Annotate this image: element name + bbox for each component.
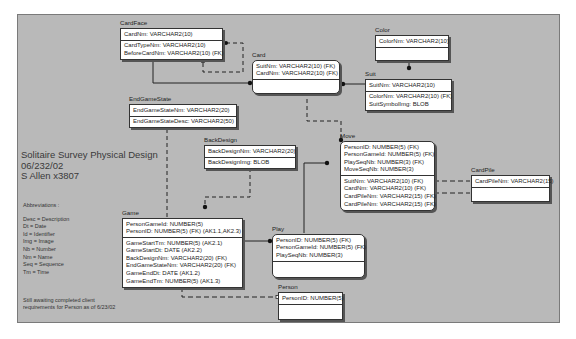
key-section: CardPileNm: VARCHAR2(15) [472, 176, 549, 187]
key-section: PersonGameId: NUMBER(5) PersonID: NUMBER… [123, 219, 242, 237]
entity-name: Move [340, 132, 355, 140]
abbreviation-item: Nm = Name [23, 254, 69, 262]
entity-backdesign[interactable]: BackDesign BackDesignNm: VARCHAR2(20) Ba… [204, 145, 296, 169]
entity-name: Person [278, 283, 298, 291]
attribute: MoveSeqNb: NUMBER(3) [344, 166, 431, 174]
attribute-section [376, 47, 448, 60]
entity-name: Game [122, 209, 139, 217]
entity-cardface[interactable]: CardFace CardNm: VARCHAR2(10) CardTypeNm… [120, 28, 223, 60]
attribute: PersonID: NUMBER(5) [282, 295, 339, 303]
key-section: BackDesignNm: VARCHAR2(20) [205, 146, 295, 157]
abbreviations-legend: Abbreviations : Desc = Description Dt = … [23, 202, 69, 276]
attribute: ColorNm: VARCHAR2(10) [379, 38, 445, 46]
attribute: CardPileNm: VARCHAR2(15) [475, 178, 546, 186]
attribute: PersonGameId: NUMBER(5) (FK) [344, 151, 431, 159]
attribute: GameStartDt: DATE (AK2.2) [126, 247, 239, 255]
key-section: PersonID: NUMBER(5) (FK) PersonGameId: N… [341, 142, 434, 175]
attribute: GameEndDt: DATE (AK1.2) [126, 270, 239, 278]
key-section: CardNm: VARCHAR2(10) [121, 29, 222, 40]
note-line: Still awaiting completed client [23, 297, 115, 304]
attribute: EndGameStateDesc: VARCHAR2(50) [133, 118, 233, 126]
key-section: SuitNm: VARCHAR2(10) [366, 80, 451, 91]
abbreviation-item: Desc = Description [23, 216, 69, 224]
attribute: ColorNm: VARCHAR2(10) (FK) [369, 93, 448, 101]
abbreviation-item: Nb = Number [23, 246, 69, 254]
entity-name: CardPile [471, 166, 495, 174]
diagram-title: Solitaire Survey Physical Design [21, 150, 158, 161]
entity-play[interactable]: Play PersonID: NUMBER(5) (FK) PersonGame… [272, 234, 365, 278]
attribute-section: ColorNm: VARCHAR2(10) (FK) SuitSymbolImg… [366, 91, 451, 110]
abbreviation-item: Tm = Time [23, 269, 69, 277]
diagram-title-block: Solitaire Survey Physical Design 06/232/… [21, 150, 158, 182]
attribute: GameStartTm: NUMBER(5) (AK2.1) [126, 240, 239, 248]
key-section: EndGameStateNm: VARCHAR2(20) [130, 105, 236, 116]
attribute: BackDesignNm: VARCHAR2(20) (FK) [126, 255, 239, 263]
attribute: CardPileNm: VARCHAR2(15) (FK) [344, 193, 431, 201]
attribute-section: EndGameStateDesc: VARCHAR2(50) [130, 116, 236, 128]
entity-cardpile[interactable]: CardPile CardPileNm: VARCHAR2(15) [471, 175, 550, 202]
entity-game[interactable]: Game PersonGameId: NUMBER(5) PersonID: N… [122, 218, 243, 288]
attribute: CardPileNm: VARCHAR2(15) (FK) [344, 201, 431, 209]
attribute: CardNm: VARCHAR2(10) (FK) [344, 185, 431, 193]
attribute: PersonID: NUMBER(5) (FK) (AK1.1,AK2.3) [126, 228, 239, 236]
attribute: SuitNm: VARCHAR2(10) (FK) [256, 63, 336, 71]
attribute: CardTypeNm: VARCHAR2(10) [124, 42, 219, 50]
attribute: PersonID: NUMBER(5) (FK) [344, 144, 431, 152]
attribute-section: CardTypeNm: VARCHAR2(10) BeforeCardNm: V… [121, 40, 222, 59]
key-section: ColorNm: VARCHAR2(10) [376, 36, 448, 47]
entity-endgamestate[interactable]: EndGameState EndGameStateNm: VARCHAR2(20… [129, 104, 237, 128]
key-section: PersonID: NUMBER(5) [279, 293, 342, 304]
abbreviation-item: Dt = Date [23, 223, 69, 231]
entity-name: Play [272, 225, 284, 233]
entity-name: EndGameState [129, 95, 171, 103]
entity-move[interactable]: Move PersonID: NUMBER(5) (FK) PersonGame… [340, 141, 435, 211]
abbreviation-item: Seq = Sequence [23, 261, 69, 269]
abbreviation-item: Id = Identifier [23, 231, 69, 239]
entity-name: Color [375, 26, 390, 34]
entity-suit[interactable]: Suit SuitNm: VARCHAR2(10) ColorNm: VARCH… [365, 79, 452, 111]
note-line: requirements for Person as of 6/23/02 [23, 304, 115, 311]
attribute: EndGameStateNm: VARCHAR2(20) (FK) [126, 262, 239, 270]
attribute-section: GameStartTm: NUMBER(5) (AK2.1) GameStart… [123, 237, 242, 287]
key-section: PersonID: NUMBER(5) (FK) PersonGameId: N… [273, 235, 364, 261]
attribute-section: SuitNm: VARCHAR2(10) (FK) CardNm: VARCHA… [341, 175, 434, 209]
attribute: CardNm: VARCHAR2(10) (FK) [256, 70, 336, 78]
attribute: SuitNm: VARCHAR2(10) (FK) [344, 178, 431, 186]
attribute-section: BackDesignImg: BLOB [205, 157, 295, 169]
diagram-note: Still awaiting completed client requirem… [23, 297, 115, 312]
key-section: SuitNm: VARCHAR2(10) (FK) CardNm: VARCHA… [253, 61, 339, 79]
attribute: SuitSymbolImg: BLOB [369, 101, 448, 109]
entity-card[interactable]: Card SuitNm: VARCHAR2(10) (FK) CardNm: V… [252, 60, 340, 94]
entity-name: Card [252, 51, 265, 59]
attribute: PlaySeqNb: NUMBER(3) [276, 252, 361, 260]
attribute-section [253, 79, 339, 93]
entity-color[interactable]: Color ColorNm: VARCHAR2(10) [375, 35, 449, 61]
attribute-section [472, 187, 549, 201]
attribute-section [273, 261, 364, 277]
entity-name: CardFace [120, 19, 147, 27]
abbreviation-item: Img = Image [23, 238, 69, 246]
entity-person[interactable]: Person PersonID: NUMBER(5) [278, 292, 343, 320]
attribute: PersonID: NUMBER(5) (FK) [276, 237, 361, 245]
attribute: SuitNm: VARCHAR2(10) [369, 82, 448, 90]
entity-name: Suit [365, 70, 376, 78]
attribute: BackDesignImg: BLOB [208, 159, 292, 167]
attribute: PersonGameId: NUMBER(5) [126, 221, 239, 229]
attribute-section [279, 304, 342, 319]
attribute: BeforeCardNm: VARCHAR2(10) (FK) [124, 50, 219, 58]
diagram-author: S Allen x3807 [21, 171, 158, 182]
attribute: PersonGameId: NUMBER(5) (FK) [276, 244, 361, 252]
attribute: PlaySeqNb: NUMBER(3) (FK) [344, 159, 431, 167]
attribute: EndGameStateNm: VARCHAR2(20) [133, 107, 233, 115]
attribute: BackDesignNm: VARCHAR2(20) [208, 148, 292, 156]
abbreviations-heading: Abbreviations : [23, 202, 69, 210]
entity-name: BackDesign [204, 136, 237, 144]
attribute: CardNm: VARCHAR2(10) [124, 31, 219, 39]
attribute: GameEndTm: NUMBER(5) (AK1.3) [126, 278, 239, 286]
